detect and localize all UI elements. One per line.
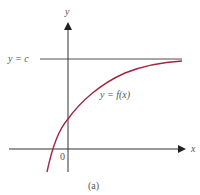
x-axis-label: x (190, 143, 196, 154)
asymptote-label: y = c (7, 53, 29, 64)
curve-label: y = f(x) (99, 89, 131, 101)
subcaption: (a) (88, 180, 99, 192)
graph-canvas: y x 0 y = c y = f(x) (a) (0, 0, 200, 195)
function-curve (47, 61, 182, 172)
y-axis-label: y (64, 6, 70, 17)
origin-label: 0 (60, 151, 65, 162)
function-graph-figure: y x 0 y = c y = f(x) (a) (0, 0, 200, 195)
